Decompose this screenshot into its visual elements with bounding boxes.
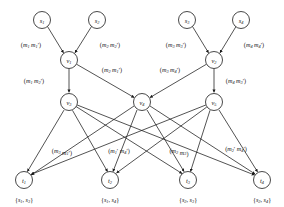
edge-v4-t1 [31,106,134,175]
edge-label-bottom-4: (m2′ m4′) [225,145,247,153]
sink-set-t2: {s1, s4} [101,196,119,204]
sink-nodes: t1 t2 t3 t4 [16,172,271,189]
node-s1-sub: 1 [42,19,44,24]
edge-v3-t2 [73,110,108,171]
sink-set-t4: {s2, s4} [253,196,271,204]
edges-intermediate-to-sinks [27,105,257,175]
edge-v5-t3 [191,110,211,171]
edge-s3-v2 [193,27,209,53]
edge-labels-bottom-row: (m3 m1′) (m1′ m4′) (m2 m3) (m2′ m4′) [52,145,247,158]
node-s4[interactable]: s4 [233,12,250,29]
source-nodes: s1 s2 s3 s4 [34,12,250,29]
node-v2[interactable]: v2 [206,52,223,69]
node-t1[interactable]: t1 [16,172,33,189]
node-t1-sub: 1 [24,179,26,184]
sink-set-t1: {s1, s3} [15,196,33,204]
edge-label-bottom-1: (m3 m1′) [52,147,72,157]
network-diagram: s1 s2 s3 s4 v1 v2 v3 v4 [0,0,284,207]
node-v3[interactable]: v3 [61,94,78,111]
node-t4[interactable]: t4 [254,172,271,189]
edge-label-s3-v2: (m3 m3′) [166,41,186,49]
edge-s2-v1 [75,27,92,53]
node-v1-sub: 1 [69,59,71,64]
sink-set-labels: {s1, s3} {s1, s4} {s2, s3} {s2, s4} [15,196,271,204]
edge-label-s4-v2: (m4 m4′) [244,41,264,49]
edge-label-s1-v1: (m1 m1′) [21,41,41,49]
edge-s1-v1 [48,27,64,53]
node-s3[interactable]: s3 [179,12,196,29]
edge-label-v1-v3: (m1 m2′) [24,77,44,85]
edge-v5-t4 [219,110,258,172]
node-v1[interactable]: v1 [61,52,78,69]
node-s2[interactable]: s2 [89,12,106,29]
edge-label-v2-v5: (m4 m3′) [226,77,246,85]
edge-label-v1-v4: (m2 m1′) [102,66,122,74]
node-v4[interactable]: v4 [134,94,151,111]
edge-v3-t1 [27,110,64,172]
intermediate-upper-nodes: v1 v2 [61,52,223,69]
edges-intermediate-to-intermediate [69,64,214,97]
node-t2[interactable]: t2 [102,172,119,189]
node-t3[interactable]: t3 [180,172,197,189]
edge-label-v2-v4: (m3 m4′) [160,66,180,74]
edge-label-bottom-2: (m1′ m4′) [108,147,130,155]
edge-labels-top-row: (m1 m1′) (m2 m2′) (m3 m3′) (m4 m4′) [21,41,264,49]
node-s1[interactable]: s1 [34,12,51,29]
edge-s4-v2 [220,27,236,53]
edge-label-s2-v1: (m2 m2′) [100,41,120,49]
node-v5[interactable]: v5 [206,94,223,111]
edges-sources-to-intermediate [48,27,237,53]
edge-v4-t3 [147,110,184,172]
sink-set-t3: {s2, s3} [179,196,197,204]
